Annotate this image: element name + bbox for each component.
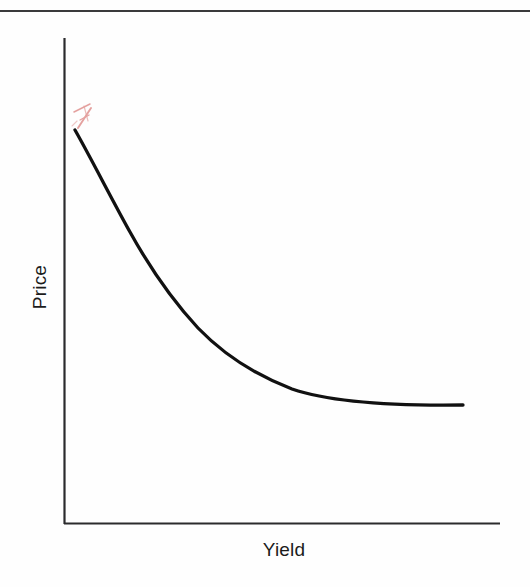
- price-yield-chart: [0, 0, 530, 587]
- x-axis-label: Yield: [263, 539, 306, 561]
- y-axis-label: Price: [29, 265, 51, 309]
- price-yield-curve: [75, 130, 463, 405]
- handwritten-pink-tick-mark: [72, 104, 91, 128]
- figure-page: Price Yield: [0, 0, 530, 587]
